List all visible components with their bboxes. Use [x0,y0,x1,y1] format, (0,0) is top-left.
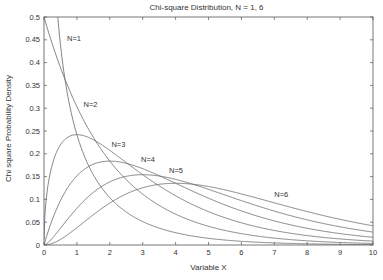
x-tick-label: 1 [75,248,79,257]
y-tick-label: 0.35 [25,81,40,90]
x-tick-label: 10 [369,248,377,257]
y-tick-label: 0.2 [30,149,40,158]
curve-n1 [44,0,373,245]
y-tick-label: 0 [36,241,40,250]
x-tick-label: 2 [108,248,112,257]
curve-label: N=5 [169,166,183,175]
y-tick-label: 0.15 [25,172,40,181]
y-tick-label: 0.45 [25,35,40,44]
x-tick-label: 8 [305,248,309,257]
curve-label: N=1 [67,34,81,43]
y-tick-label: 0.05 [25,218,40,227]
curve-label: N=4 [141,155,155,164]
curve-n3 [44,135,373,241]
y-tick-label: 0.5 [30,13,40,22]
curve-n2 [44,17,373,243]
curves [44,0,373,245]
curve-label: N=3 [111,140,125,149]
curve-n4 [44,161,373,245]
x-tick-label: 9 [338,248,342,257]
curve-labels: N=1N=2N=3N=4N=5N=6 [67,34,288,199]
x-tick-label: 7 [272,248,276,257]
curve-label: N=6 [274,190,288,199]
x-tick-label: 0 [42,248,46,257]
x-tick-label: 4 [174,248,178,257]
plot-frame [44,17,373,245]
x-tick-label: 3 [141,248,145,257]
x-tick-label: 6 [239,248,243,257]
y-tick-label: 0.25 [25,127,40,136]
y-tick-label: 0.3 [30,104,40,113]
curve-label: N=2 [83,100,97,109]
x-tick-label: 5 [206,248,210,257]
y-tick-label: 0.4 [30,58,40,67]
curve-n5 [44,175,373,245]
chart-plot: 01234567891000.050.10.150.20.250.30.350.… [0,0,383,280]
y-tick-label: 0.1 [30,195,40,204]
